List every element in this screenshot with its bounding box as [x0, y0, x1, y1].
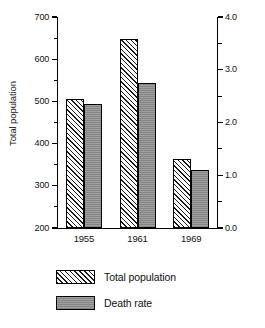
right-tick-4.0	[218, 16, 223, 17]
solid-gray-swatch	[56, 296, 95, 310]
legend-item-total-population: Total population	[56, 268, 176, 285]
bar-1969-death-rate	[191, 170, 209, 228]
x-axis-label-1961: 1961	[115, 233, 161, 244]
x-axis-label-1969: 1969	[168, 233, 214, 244]
bar-1955-total-population	[66, 99, 84, 228]
right-minor-tick	[218, 43, 222, 44]
right-tick-3.0	[218, 69, 223, 70]
right-tick-label-4.0: 4.0	[225, 13, 251, 22]
left-tick-label-500: 500	[23, 97, 49, 106]
left-tick-label-300: 300	[23, 181, 49, 190]
right-tick-label-1.0: 1.0	[225, 171, 251, 180]
right-axis-title: Deaths per 100 men	[263, 44, 265, 184]
plot-area	[57, 17, 218, 228]
legend-label-death-rate: Death rate	[104, 297, 152, 309]
diagonal-hatch-swatch	[56, 270, 95, 284]
bar-1961-death-rate	[138, 83, 156, 228]
right-tick-0.0	[218, 227, 223, 228]
right-tick-2.0	[218, 122, 223, 123]
bottom-axis-line	[57, 228, 219, 229]
bar-1969-total-population	[173, 159, 191, 228]
legend-item-death-rate: Death rate	[56, 294, 176, 311]
right-tick-label-3.0: 3.0	[225, 65, 251, 74]
left-tick-label-200: 200	[23, 224, 49, 233]
left-axis-title: Total population	[7, 54, 18, 174]
right-tick-label-0.0: 0.0	[225, 224, 251, 233]
chart-legend: Total population Death rate	[56, 268, 176, 320]
bar-1961-total-population	[120, 39, 138, 228]
bar-chart-figure: Total population Deaths per 100 men 2003…	[0, 0, 264, 328]
left-tick-label-400: 400	[23, 139, 49, 148]
right-minor-tick	[218, 96, 222, 97]
right-tick-1.0	[218, 175, 223, 176]
bar-1955-death-rate	[84, 104, 102, 228]
legend-label-total-population: Total population	[104, 271, 176, 283]
left-tick-label-700: 700	[23, 13, 49, 22]
left-tick-label-600: 600	[23, 55, 49, 64]
right-tick-label-2.0: 2.0	[225, 118, 251, 127]
right-minor-tick	[218, 148, 222, 149]
x-axis-label-1955: 1955	[61, 233, 107, 244]
right-minor-tick	[218, 201, 222, 202]
